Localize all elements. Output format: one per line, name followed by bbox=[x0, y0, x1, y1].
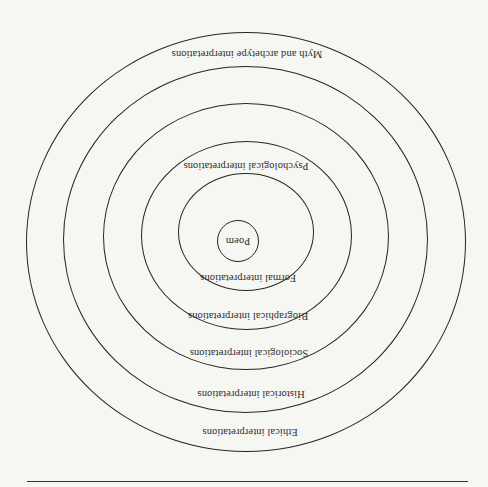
label-ethical: Ethical interpretations bbox=[202, 426, 297, 438]
label-sociological: Sociological interpretations bbox=[190, 347, 309, 359]
label-biographical: Biographical interpretations bbox=[188, 310, 308, 322]
label-myth-archetype: Myth and archetype interpretations bbox=[172, 48, 323, 60]
interpretation-rings-diagram: Poem Formal interpretations Psychologica… bbox=[0, 0, 488, 487]
label-formal: Formal interpretations bbox=[200, 272, 296, 284]
label-poem: Poem bbox=[226, 235, 250, 247]
bottom-rule-divider bbox=[27, 481, 468, 482]
label-historical: Historical interpretations bbox=[197, 388, 304, 400]
label-psychological: Psychological interpretations bbox=[183, 160, 308, 172]
